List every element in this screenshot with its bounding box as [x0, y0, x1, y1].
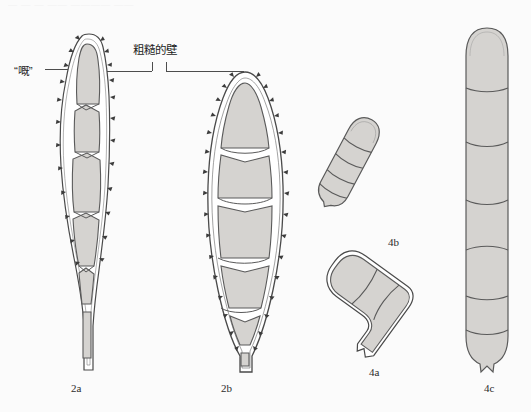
- specimen-4a: [300, 243, 419, 360]
- cell-2b-2: [218, 155, 272, 198]
- cell-2a-4: [73, 213, 99, 266]
- caption-4a: 4a: [369, 366, 379, 378]
- cell-2b-4: [221, 266, 269, 308]
- specimen-2b: [203, 72, 290, 372]
- cell-2a-1: [77, 44, 100, 104]
- specimen-4b: [311, 112, 385, 214]
- cell-2a-5: [79, 268, 94, 304]
- caption-4c: 4c: [484, 382, 494, 394]
- cell-2a-6: [83, 312, 91, 358]
- illustration-canvas: [0, 0, 531, 412]
- annotation-beak-label: “嘅”: [14, 62, 33, 78]
- caption-4b: 4b: [388, 236, 399, 248]
- cell-2a-3: [72, 153, 100, 212]
- caption-2b: 2b: [221, 382, 232, 394]
- figure-plate: — — — —— ———— ——: [0, 0, 531, 412]
- caption-2a: 2a: [71, 382, 81, 394]
- cell-2b-6: [241, 353, 249, 366]
- annotation-rough-wall-label: 粗糙的壁: [133, 41, 177, 57]
- cell-2b-3: [218, 206, 272, 258]
- specimen-4c: [466, 28, 508, 372]
- cell-2a-2: [74, 105, 100, 152]
- specimen-2a: [56, 34, 116, 370]
